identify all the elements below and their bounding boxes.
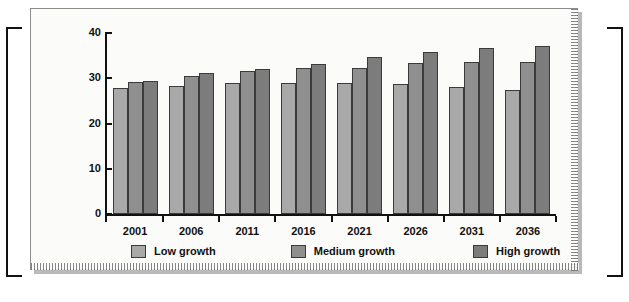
y-tick-label-10: 10: [76, 162, 101, 174]
x-tick-2036: [555, 216, 557, 222]
bar-group-2016: [281, 33, 326, 214]
plot-area: 010203040 200120062011201620212026203120…: [76, 27, 556, 227]
x-tick-label-2011: 2011: [224, 225, 270, 237]
bar-2001-medium-growth: [128, 82, 143, 214]
legend-label: Low growth: [154, 245, 216, 257]
scan-edge-right: [571, 9, 578, 271]
x-tick-2021: [387, 216, 389, 222]
bar-2011-high-growth: [255, 69, 270, 214]
bar-2016-low-growth: [281, 83, 296, 214]
x-tick-label-2026: 2026: [393, 225, 439, 237]
x-tick-2011: [274, 216, 276, 222]
legend-label: High growth: [496, 245, 560, 257]
bar-group-2021: [337, 33, 382, 214]
bar-2021-medium-growth: [352, 68, 367, 214]
x-tick-origin: [105, 216, 107, 222]
bar-2006-low-growth: [169, 86, 184, 214]
bar-series-container: [107, 33, 556, 214]
x-tick-label-2016: 2016: [280, 225, 326, 237]
y-tick-label-40: 40: [76, 26, 101, 38]
bar-2036-medium-growth: [520, 62, 535, 214]
bar-2016-high-growth: [311, 64, 326, 214]
bar-group-2011: [225, 33, 270, 214]
scan-edge-bottom: [31, 263, 579, 270]
bar-2011-low-growth: [225, 83, 240, 214]
legend-swatch-icon: [131, 245, 146, 258]
bar-2036-low-growth: [505, 90, 520, 214]
x-tick-2006: [218, 216, 220, 222]
legend-swatch-icon: [291, 245, 306, 258]
x-tick-2026: [443, 216, 445, 222]
bar-2011-medium-growth: [240, 71, 255, 214]
bar-2031-low-growth: [449, 87, 464, 214]
bar-2001-low-growth: [113, 88, 128, 214]
x-tick-label-2036: 2036: [505, 225, 551, 237]
bar-2036-high-growth: [535, 46, 550, 214]
y-tick-label-0: 0: [76, 207, 101, 219]
bar-group-2031: [449, 33, 494, 214]
x-tick-label-2001: 2001: [112, 225, 158, 237]
bar-2026-low-growth: [393, 84, 408, 214]
x-tick-2001: [162, 216, 164, 222]
x-tick-2031: [499, 216, 501, 222]
bar-2021-high-growth: [367, 57, 382, 214]
bar-2016-medium-growth: [296, 68, 311, 214]
bar-2031-medium-growth: [464, 62, 479, 214]
x-tick-label-2021: 2021: [337, 225, 383, 237]
bar-group-2001: [113, 33, 158, 214]
legend-label: Medium growth: [314, 245, 395, 257]
bar-group-2006: [169, 33, 214, 214]
legend-item-medium-growth[interactable]: Medium growth: [291, 245, 395, 258]
bar-2026-medium-growth: [408, 63, 423, 214]
bar-group-2036: [505, 33, 550, 214]
x-tick-2016: [331, 216, 333, 222]
bar-group-2026: [393, 33, 438, 214]
x-tick-label-2006: 2006: [168, 225, 214, 237]
chart-legend: Low growthMedium growthHigh growth: [76, 241, 556, 261]
y-tick-label-30: 30: [76, 71, 101, 83]
legend-swatch-icon: [473, 245, 488, 258]
y-tick-label-20: 20: [76, 117, 101, 129]
bar-2001-high-growth: [143, 81, 158, 214]
bar-chart-figure: 010203040 200120062011201620212026203120…: [30, 8, 578, 270]
x-tick-label-2031: 2031: [449, 225, 495, 237]
bar-2026-high-growth: [423, 52, 438, 214]
bar-2021-low-growth: [337, 83, 352, 214]
legend-item-low-growth[interactable]: Low growth: [131, 245, 216, 258]
bar-2006-medium-growth: [184, 76, 199, 214]
legend-item-high-growth[interactable]: High growth: [473, 245, 560, 258]
bar-2031-high-growth: [479, 48, 494, 214]
page-bracket-right: [607, 27, 623, 277]
bar-2006-high-growth: [199, 73, 214, 214]
page-bracket-left: [6, 27, 22, 277]
